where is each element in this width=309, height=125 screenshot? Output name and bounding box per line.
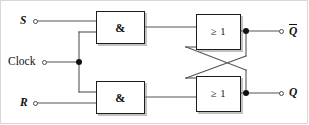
output-label-qbar: Q — [289, 24, 297, 38]
output-label-q: Q — [289, 87, 297, 99]
or-gate-bottom[interactable]: ≥ 1 — [196, 76, 241, 112]
and-gate-top[interactable]: & — [96, 11, 145, 44]
junction-clock-fanout — [76, 59, 82, 65]
and-gate-bottom[interactable]: & — [96, 81, 145, 114]
and-gate-bottom-label: & — [115, 92, 126, 104]
or-gate-bottom-label: ≥ 1 — [211, 89, 226, 100]
output-label-q-text: Q — [289, 86, 297, 98]
output-label-qbar-text: Q — [289, 24, 297, 38]
output-terminal-q[interactable] — [279, 91, 284, 96]
junction-qbar-tap — [243, 28, 249, 34]
input-label-r-text: R — [20, 96, 28, 108]
junction-q-tap — [243, 90, 249, 96]
input-terminal-r[interactable] — [33, 101, 38, 106]
or-gate-top[interactable]: ≥ 1 — [196, 14, 241, 50]
circuit-diagram-canvas: & & ≥ 1 ≥ 1 S Clock R Q Q — [0, 0, 309, 125]
input-label-s-text: S — [20, 14, 26, 26]
input-label-clock-text: Clock — [8, 55, 35, 67]
input-label-r: R — [20, 97, 28, 109]
output-terminal-qbar[interactable] — [279, 29, 284, 34]
input-terminal-clock[interactable] — [42, 60, 47, 65]
and-gate-top-label: & — [115, 22, 126, 34]
input-terminal-s[interactable] — [33, 19, 38, 24]
or-gate-top-label: ≥ 1 — [211, 27, 226, 38]
input-label-clock: Clock — [8, 56, 35, 68]
input-label-s: S — [20, 15, 26, 27]
